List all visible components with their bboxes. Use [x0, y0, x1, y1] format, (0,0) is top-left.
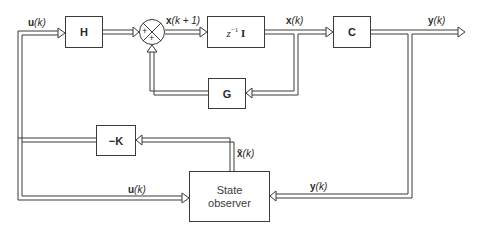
signal-label-x-tilde: x̃(k): [237, 148, 254, 159]
block-c-label: C: [348, 26, 356, 38]
block-neg-k-label: −K: [109, 135, 123, 147]
signal-label-x-next: x(k + 1): [166, 15, 200, 26]
plus-sign-bottom: +: [149, 33, 154, 43]
block-h-label: H: [80, 26, 88, 38]
block-h: H: [65, 16, 103, 48]
signal-label-u-top: u(k): [28, 17, 46, 28]
plus-sign-left: +: [142, 26, 147, 36]
block-delay: z−1 I: [207, 16, 265, 48]
signal-label-y-out: y(k): [428, 15, 445, 26]
block-state-observer: State observer: [189, 171, 270, 222]
block-c: C: [333, 16, 371, 48]
signal-label-x-k: x(k): [286, 15, 303, 26]
signal-label-u-bottom: u(k): [128, 184, 146, 195]
block-neg-k: −K: [96, 125, 136, 156]
observer-label-line2: observer: [208, 197, 251, 210]
observer-label-line1: State: [217, 184, 243, 197]
block-g: G: [208, 78, 246, 109]
block-delay-label: z−1 I: [227, 26, 246, 39]
signal-label-y-bottom: y(k): [310, 181, 327, 192]
block-g-label: G: [223, 88, 232, 100]
